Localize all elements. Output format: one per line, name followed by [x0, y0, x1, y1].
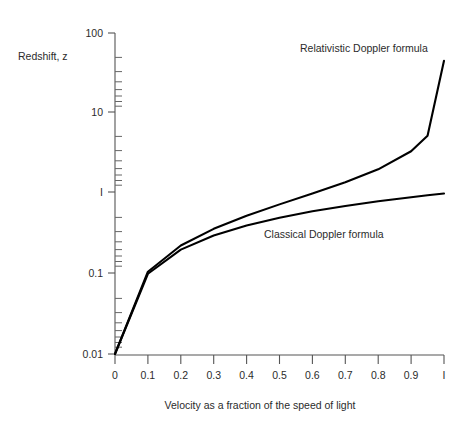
- x-axis: 0 0.1 0.2 0.3 0.4 0.5 0.6 0.7 0.8 0.9 I: [112, 355, 445, 381]
- x-tick-label-0.4: 0.4: [239, 369, 254, 381]
- y-tick-label-0.01: 0.01: [83, 348, 104, 360]
- y-axis-title: Redshift, z: [18, 50, 68, 62]
- y-tick-label-100: 100: [85, 27, 103, 39]
- x-tick-label-0.1: 0.1: [141, 369, 156, 381]
- y-tick-label-1: I: [100, 186, 103, 198]
- redshift-velocity-chart: 100 10 I 0.1 0.01 0 0.1 0.2 0.3 0.4 0.5: [0, 0, 470, 433]
- data-curves: [115, 61, 444, 354]
- relativistic-doppler-curve: [115, 61, 444, 354]
- y-tick-label-10: 10: [91, 106, 103, 118]
- x-tick-label-0.9: 0.9: [404, 369, 419, 381]
- y-minor-ticks: [115, 57, 122, 347]
- relativistic-doppler-label: Relativistic Doppler formula: [300, 42, 428, 54]
- y-axis: 100 10 I 0.1 0.01: [83, 27, 122, 360]
- chart-figure: 100 10 I 0.1 0.01 0 0.1 0.2 0.3 0.4 0.5: [0, 0, 470, 433]
- x-axis-title: Velocity as a fraction of the speed of l…: [165, 399, 356, 411]
- x-tick-label-0: 0: [112, 369, 118, 381]
- classical-doppler-curve: [115, 194, 444, 355]
- x-tick-label-0.6: 0.6: [305, 369, 320, 381]
- x-tick-label-1: I: [443, 369, 446, 381]
- x-tick-label-0.5: 0.5: [272, 369, 287, 381]
- x-tick-label-0.3: 0.3: [206, 369, 221, 381]
- x-tick-label-0.7: 0.7: [338, 369, 353, 381]
- x-tick-label-0.2: 0.2: [173, 369, 188, 381]
- classical-doppler-label: Classical Doppler formula: [264, 228, 384, 240]
- x-tick-label-0.8: 0.8: [371, 369, 386, 381]
- y-tick-label-0.1: 0.1: [88, 267, 103, 279]
